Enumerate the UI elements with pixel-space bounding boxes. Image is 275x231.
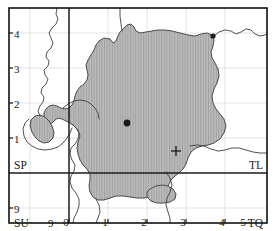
x-tick-label-4: 4: [219, 216, 225, 228]
x-tick-label-5: 5: [240, 216, 246, 228]
grid-square-label-sp: SP: [14, 159, 27, 171]
x-tick-label-1: 1: [102, 216, 108, 228]
y-tick-label-9: 9: [14, 203, 20, 215]
grid-square-label-tq: TQ: [248, 217, 264, 229]
x-tick-label-3: 3: [180, 216, 186, 228]
y-tick-label-1: 1: [14, 133, 20, 145]
marker-filled-dot-secondary: [210, 33, 215, 38]
x-tick-label-2: 2: [141, 216, 147, 228]
map-figure: 4 3 2 1 9 0 1 2 3 4 5 SP TL SU TQ 9: [0, 0, 275, 231]
x-tick-label-0: 0: [63, 216, 69, 228]
y-tick-label-3: 3: [14, 63, 20, 75]
map-canvas: 4 3 2 1 9 0 1 2 3 4 5 SP TL SU TQ 9: [0, 0, 275, 231]
grid-square-label-tl: TL: [249, 159, 263, 171]
grid-square-label-su: SU: [14, 217, 29, 229]
su-row-tick-label: 9: [48, 217, 54, 229]
y-tick-label-2: 2: [14, 98, 20, 110]
y-tick-label-4: 4: [14, 28, 20, 40]
marker-filled-dot-primary: [124, 120, 131, 127]
